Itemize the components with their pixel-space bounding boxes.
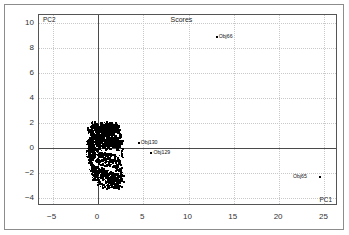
y-tick-label: 0 bbox=[12, 143, 34, 152]
y-tick-label: 4 bbox=[12, 92, 34, 101]
outlier-label: Obj129 bbox=[153, 149, 170, 155]
data-point bbox=[97, 182, 98, 183]
data-point bbox=[112, 187, 113, 188]
chart-title: Scores bbox=[171, 16, 193, 23]
data-point bbox=[97, 173, 99, 175]
data-point bbox=[102, 179, 104, 181]
data-point bbox=[114, 154, 116, 156]
data-point bbox=[106, 156, 107, 157]
x-tick-label: −5 bbox=[47, 212, 56, 221]
data-point bbox=[100, 125, 101, 126]
data-point bbox=[122, 172, 123, 173]
data-point bbox=[105, 180, 106, 181]
x-tick-label: 20 bbox=[274, 212, 283, 221]
data-point bbox=[117, 184, 118, 185]
data-point bbox=[121, 167, 123, 169]
data-point bbox=[123, 157, 124, 158]
data-point bbox=[116, 141, 117, 142]
data-point bbox=[111, 164, 112, 165]
gridline-vertical bbox=[279, 15, 280, 204]
data-point bbox=[86, 154, 87, 155]
y-tick-label: 2 bbox=[12, 118, 34, 127]
y-tick-label: −4 bbox=[12, 193, 34, 202]
x-tick-label: 10 bbox=[183, 212, 192, 221]
gridline-horizontal bbox=[39, 48, 336, 49]
data-point bbox=[104, 129, 106, 131]
data-point bbox=[113, 160, 114, 161]
gridline-horizontal bbox=[39, 123, 336, 124]
gridline-horizontal bbox=[39, 198, 336, 199]
data-point bbox=[88, 133, 89, 134]
data-point bbox=[117, 188, 118, 189]
data-point bbox=[86, 144, 87, 145]
outlier-point bbox=[150, 152, 152, 154]
data-point bbox=[118, 184, 119, 185]
data-point bbox=[108, 176, 109, 177]
data-point bbox=[111, 126, 113, 128]
data-point bbox=[113, 179, 114, 180]
data-point bbox=[120, 173, 121, 174]
y-tick-label: 10 bbox=[12, 17, 34, 26]
data-point bbox=[100, 122, 102, 124]
x-tick-label: 0 bbox=[95, 212, 99, 221]
data-point bbox=[90, 150, 92, 152]
data-point bbox=[91, 137, 93, 139]
data-point bbox=[117, 127, 118, 128]
data-point bbox=[94, 124, 96, 126]
plot-area: Obj66Obj130Obj129Obj65 Scores PC2 PC1 bbox=[38, 14, 337, 205]
gridline-vertical bbox=[324, 15, 325, 204]
data-point bbox=[121, 186, 123, 188]
data-point bbox=[115, 187, 117, 189]
data-point bbox=[112, 162, 113, 163]
data-point bbox=[103, 159, 105, 161]
data-point bbox=[113, 124, 115, 126]
data-point bbox=[92, 179, 93, 180]
data-point bbox=[108, 180, 110, 182]
data-point bbox=[100, 186, 101, 187]
data-point bbox=[120, 138, 121, 139]
data-point bbox=[93, 148, 95, 150]
data-point bbox=[108, 145, 109, 146]
data-point bbox=[117, 133, 118, 134]
data-point bbox=[115, 139, 116, 140]
data-point bbox=[107, 146, 109, 148]
outlier-point bbox=[138, 142, 140, 144]
y-tick-label: 8 bbox=[12, 42, 34, 51]
data-point bbox=[89, 150, 90, 151]
gridline-horizontal bbox=[39, 73, 336, 74]
x-tick-label: 25 bbox=[319, 212, 328, 221]
data-point bbox=[102, 155, 104, 157]
data-point bbox=[98, 153, 99, 154]
outlier-point bbox=[319, 176, 321, 178]
data-point bbox=[121, 153, 122, 154]
data-point bbox=[118, 170, 120, 172]
data-point bbox=[117, 129, 118, 130]
data-point bbox=[88, 142, 89, 143]
y-tick-label: 6 bbox=[12, 67, 34, 76]
data-point bbox=[96, 137, 97, 138]
data-point bbox=[92, 160, 93, 161]
zero-line-horizontal bbox=[39, 148, 336, 149]
data-point bbox=[121, 143, 123, 145]
data-point bbox=[123, 175, 125, 177]
data-point bbox=[101, 150, 102, 151]
data-point bbox=[117, 165, 119, 167]
data-point bbox=[89, 147, 90, 148]
data-point bbox=[119, 159, 120, 160]
data-point bbox=[117, 157, 119, 159]
data-point bbox=[95, 134, 96, 135]
data-point bbox=[112, 154, 114, 156]
data-point bbox=[119, 132, 120, 133]
x-tick-label: 15 bbox=[228, 212, 237, 221]
data-point bbox=[91, 163, 93, 165]
data-point bbox=[93, 145, 94, 146]
data-point bbox=[97, 179, 99, 181]
data-point bbox=[96, 179, 97, 180]
data-point bbox=[119, 179, 120, 180]
data-point bbox=[93, 164, 94, 165]
data-point bbox=[106, 122, 108, 124]
data-point bbox=[123, 181, 125, 183]
data-point bbox=[118, 162, 119, 163]
data-point bbox=[118, 145, 120, 147]
outlier-label: Obj65 bbox=[293, 173, 307, 179]
